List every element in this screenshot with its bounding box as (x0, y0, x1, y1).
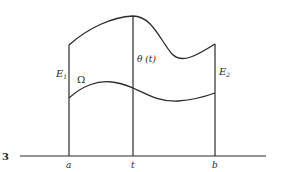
b-label: b (212, 160, 218, 170)
a-label: a (66, 160, 71, 170)
upper-boundary-curve (69, 16, 215, 59)
e1-label: E1 (55, 68, 67, 80)
figure-number-fragment: 3 (2, 151, 9, 162)
omega-label: Ω (77, 74, 85, 85)
region-diagram: 3 E1 Ω θ (t) E2 a t b (0, 0, 292, 172)
lower-boundary-curve (69, 82, 215, 101)
t-label: t (131, 160, 135, 170)
theta-t-label: θ (t) (137, 54, 156, 64)
e2-label: E2 (218, 66, 230, 78)
